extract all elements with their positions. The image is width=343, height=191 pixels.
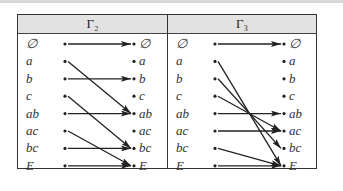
target-dot [132, 42, 135, 45]
target-dot [132, 77, 135, 80]
source-dot [63, 77, 66, 80]
source-label: ∅ [26, 36, 38, 51]
target-label: bc [139, 140, 152, 155]
target-label: ac [289, 123, 302, 138]
target-dot [282, 147, 285, 150]
source-label: c [26, 88, 32, 103]
source-dot [213, 112, 216, 115]
target-dot [282, 164, 285, 167]
target-label: a [139, 53, 146, 68]
target-dot [282, 95, 285, 98]
top-border [0, 0, 343, 3]
source-label: c [176, 88, 182, 103]
source-dot [213, 129, 216, 132]
target-label: ab [139, 106, 153, 121]
target-dot [282, 112, 285, 115]
source-dot [63, 95, 66, 98]
target-dot [132, 60, 135, 63]
source-dot [63, 60, 66, 63]
target-label: bc [289, 140, 302, 155]
target-dot [282, 129, 285, 132]
mapping-diagram: ∅∅aabbccababacacbcbcEE [18, 34, 167, 170]
source-label: ab [26, 106, 40, 121]
source-dot [213, 147, 216, 150]
source-dot [213, 60, 216, 63]
source-label: ac [176, 123, 189, 138]
source-dot [63, 112, 66, 115]
panel-gamma2: Γ₂ ∅∅aabbccababacacbcbcEE [18, 15, 168, 168]
target-label: E [288, 158, 297, 170]
target-label: ∅ [289, 36, 301, 51]
source-label: ∅ [176, 36, 188, 51]
mapping-arrow [68, 96, 131, 148]
target-dot [282, 60, 285, 63]
target-dot [132, 147, 135, 150]
target-dot [132, 129, 135, 132]
source-label: E [25, 158, 34, 170]
panel-title: Γ₃ [168, 15, 316, 34]
source-label: ab [176, 106, 190, 121]
source-label: ac [26, 123, 39, 138]
target-label: ac [139, 123, 152, 138]
target-label: b [289, 71, 296, 86]
target-label: ab [289, 106, 303, 121]
target-label: c [289, 88, 295, 103]
target-label: c [139, 88, 145, 103]
target-label: a [289, 53, 296, 68]
source-label: b [26, 71, 33, 86]
target-label: E [138, 158, 147, 170]
target-label: ∅ [139, 36, 151, 51]
source-dot [213, 164, 216, 167]
source-dot [213, 42, 216, 45]
source-label: bc [26, 140, 39, 155]
source-label: a [26, 53, 33, 68]
mapping-arrow [68, 61, 131, 113]
source-label: E [175, 158, 184, 170]
panel-title: Γ₂ [18, 15, 167, 34]
source-label: bc [176, 140, 189, 155]
source-dot [63, 129, 66, 132]
source-dot [213, 77, 216, 80]
source-label: a [176, 53, 183, 68]
target-dot [132, 95, 135, 98]
target-dot [282, 42, 285, 45]
panel-gamma3: Γ₃ ∅∅aabbccababacacbcbcEE [168, 15, 316, 168]
source-dot [63, 147, 66, 150]
source-label: b [176, 71, 183, 86]
target-dot [132, 112, 135, 115]
target-dot [282, 77, 285, 80]
mapping-table: Γ₂ ∅∅aabbccababacacbcbcEE Γ₃ ∅∅aabbccaba… [17, 14, 317, 169]
source-dot [213, 95, 216, 98]
source-dot [63, 42, 66, 45]
target-dot [132, 164, 135, 167]
mapping-diagram: ∅∅aabbccababacacbcbcEE [168, 34, 316, 170]
target-label: b [139, 71, 146, 86]
source-dot [63, 164, 66, 167]
